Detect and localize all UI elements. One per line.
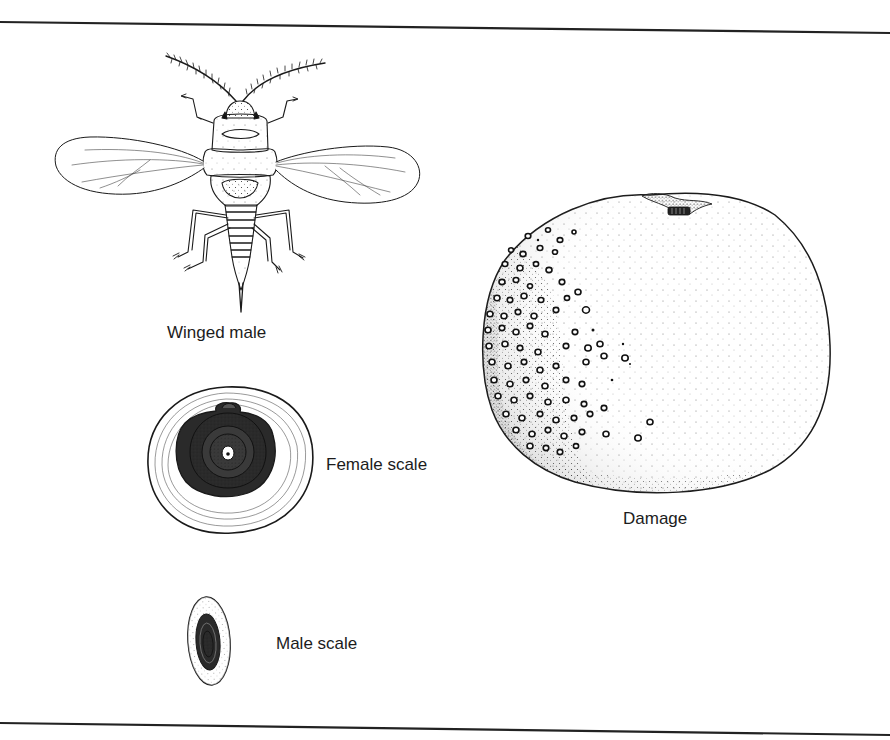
illustration-plate: Winged male Female scale Male scale Dama… <box>0 0 890 740</box>
male-scale-drawing <box>185 596 233 687</box>
damage-label: Damage <box>623 509 687 529</box>
male-scale-label: Male scale <box>276 634 357 654</box>
top-rule <box>0 22 890 33</box>
winged-male-drawing <box>55 53 420 312</box>
female-scale-drawing <box>148 387 313 533</box>
illustration-artwork <box>0 0 890 740</box>
damaged-fruit-drawing <box>470 180 850 510</box>
bottom-rule <box>0 723 890 735</box>
female-scale-label: Female scale <box>326 455 427 475</box>
winged-male-label: Winged male <box>167 323 266 343</box>
